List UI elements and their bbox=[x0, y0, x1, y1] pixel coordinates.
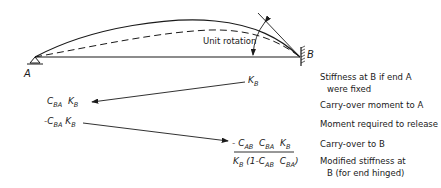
desc-stiffness-fixed-2: were fixed bbox=[327, 84, 371, 94]
support-a-label: A bbox=[24, 68, 31, 79]
unit-rotation-label: Unit rotation bbox=[203, 36, 256, 46]
desc-moment-release: Moment required to release bbox=[320, 119, 438, 129]
deflection-curve-dashed bbox=[35, 30, 300, 57]
desc-modified-stiffness-2: B (for end hinged) bbox=[327, 168, 404, 178]
fixed-support-icon bbox=[301, 46, 305, 66]
desc-stiffness-fixed-1: Stiffness at B if end A bbox=[320, 72, 411, 82]
expr-neg-cba-kb: -CBA KB bbox=[44, 116, 76, 129]
desc-carryover-b: Carry-over to B bbox=[320, 139, 385, 149]
expr-modified-stiffness: KB (1-CAB CBA) bbox=[233, 156, 298, 169]
support-b-label: B bbox=[307, 49, 314, 60]
arrow-release-to-carryover-b bbox=[83, 123, 228, 141]
desc-carryover-a: Carry-over moment to A bbox=[320, 100, 423, 110]
tangent-line bbox=[258, 13, 300, 57]
expr-kb: KB bbox=[248, 75, 258, 88]
pin-support-icon bbox=[27, 57, 43, 64]
deflection-curve-solid bbox=[35, 20, 300, 57]
expr-cba-kb: CBA KB bbox=[47, 96, 78, 109]
arrow-kb-to-carryover bbox=[92, 82, 245, 102]
expr-carryover-b: - CAB CBA KB bbox=[232, 138, 290, 151]
desc-modified-stiffness-1: Modified stiffness at bbox=[320, 156, 406, 166]
